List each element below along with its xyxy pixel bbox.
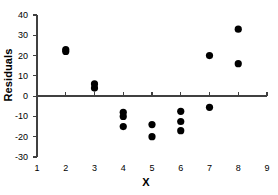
data-point [206, 104, 213, 111]
plot-area: -30-20-10010203040123456789 [0, 0, 278, 195]
data-points [62, 26, 242, 141]
data-point [62, 48, 69, 55]
x-axis [37, 92, 267, 96]
y-axis-tick-label: -10 [4, 111, 28, 121]
data-point [91, 84, 98, 91]
x-axis-title: X [0, 176, 278, 188]
x-axis-tick-label: 6 [173, 163, 189, 173]
x-axis-tick-label: 3 [87, 163, 103, 173]
x-axis-tick-label: 8 [230, 163, 246, 173]
y-axis-tick-label: -30 [4, 152, 28, 162]
y-axis-tick-label: -20 [4, 132, 28, 142]
x-axis-tick-label: 1 [29, 163, 45, 173]
x-axis-tick-label: 4 [115, 163, 131, 173]
x-axis-tick-label: 5 [144, 163, 160, 173]
data-point [206, 52, 213, 59]
data-point [148, 121, 155, 128]
y-axis-tick-label: 40 [4, 10, 28, 20]
x-axis-tick-label: 7 [202, 163, 218, 173]
data-point [177, 118, 184, 125]
data-point [235, 60, 242, 67]
data-point [235, 26, 242, 33]
y-axis-tick-label: 20 [4, 51, 28, 61]
x-axis-title-text: X [142, 176, 149, 188]
data-point [148, 133, 155, 140]
data-point [120, 123, 127, 130]
y-axis-tick-label: 10 [4, 71, 28, 81]
residual-scatter-plot: Residuals -30-20-10010203040123456789 X [0, 0, 278, 195]
x-axis-tick-label: 2 [58, 163, 74, 173]
x-axis-tick-label: 9 [259, 163, 275, 173]
data-point [177, 108, 184, 115]
data-point [120, 113, 127, 120]
data-point [177, 127, 184, 134]
y-axis-tick-label: 0 [4, 91, 28, 101]
y-axis [33, 15, 37, 157]
y-axis-tick-label: 30 [4, 30, 28, 40]
